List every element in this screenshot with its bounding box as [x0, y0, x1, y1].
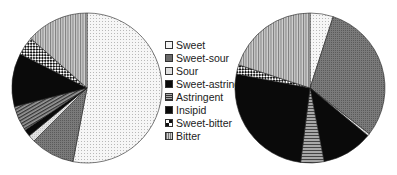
legend-label: Bitter [176, 130, 201, 142]
astringent-swatch-icon [165, 93, 173, 101]
legend-label: Insipid [176, 104, 206, 116]
pie-chart-right [223, 0, 397, 175]
sweet-sour-swatch-icon [165, 54, 173, 62]
legend-label: Sweet-sour [176, 52, 229, 64]
sweet-bitter-swatch-icon [165, 119, 173, 127]
insipid-swatch-icon [165, 106, 173, 114]
bitter-swatch-icon [165, 132, 173, 140]
legend-label: Sour [176, 65, 198, 77]
sweet-astringent-swatch-icon [165, 80, 173, 88]
pie-chart-left [0, 0, 175, 175]
legend-label: Sweet [176, 39, 205, 51]
pie-slice-insipid [235, 74, 310, 162]
legend-label: Astringent [176, 91, 223, 103]
sour-swatch-icon [165, 67, 173, 75]
sweet-swatch-icon [165, 41, 173, 49]
